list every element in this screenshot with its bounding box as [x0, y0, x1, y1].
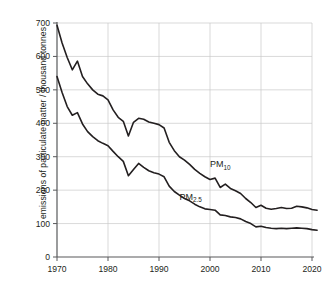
- x-tick-label: 1990: [149, 264, 168, 274]
- x-tick-labels: 197019801990200020102020: [47, 264, 321, 274]
- y-tick-label: 700: [36, 18, 51, 28]
- x-tick-label: 2010: [251, 264, 270, 274]
- series-annotation-pm2-5: PM2.5: [179, 192, 202, 203]
- series-line-pm10: [57, 25, 317, 210]
- y-tick-labels: 0100200300400500600700: [36, 18, 51, 262]
- y-tick-label: 500: [36, 85, 51, 95]
- series-line-pm2-5: [57, 76, 317, 230]
- emissions-line-chart: emissions of particulate matter / thousa…: [0, 0, 334, 289]
- y-tick-label: 100: [36, 219, 51, 229]
- series-annotations-group: PM10PM2.5: [179, 159, 231, 202]
- y-tick-label: 300: [36, 152, 51, 162]
- y-tick-label: 400: [36, 118, 51, 128]
- y-tick-label: 0: [45, 252, 50, 262]
- gridlines-group: [57, 23, 312, 257]
- x-tick-label: 2000: [200, 264, 219, 274]
- x-tick-label: 2020: [302, 264, 321, 274]
- series-annotation-pm10: PM10: [210, 159, 231, 170]
- chart-plot-area: 0100200300400500600700 19701980199020002…: [0, 0, 334, 289]
- y-tick-label: 600: [36, 51, 51, 61]
- x-tick-label: 1970: [47, 264, 66, 274]
- tick-marks-group: [53, 23, 312, 261]
- y-tick-label: 200: [36, 185, 51, 195]
- x-tick-label: 1980: [98, 264, 117, 274]
